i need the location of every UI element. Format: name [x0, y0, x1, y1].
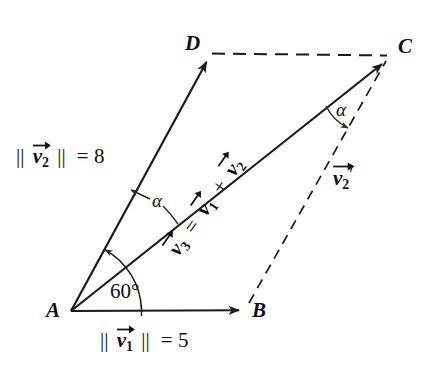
plus-sign: +	[206, 175, 232, 199]
vector-symbol-v2: v2	[33, 146, 49, 170]
figure-canvas: A B C D || v2 || = 8 || v1	[0, 0, 441, 370]
vector-subscript: 1	[126, 339, 133, 354]
edge-AB-vector-v1	[71, 310, 239, 311]
magnitude-label-v1: || v1 || = 5	[100, 330, 188, 354]
norm-bars-open: ||	[100, 328, 108, 352]
vector-arrow-accent-icon	[332, 161, 355, 170]
vector-symbol-v2-prime: v2′	[333, 167, 353, 192]
magnitude-equals-value-v2: = 8	[77, 144, 105, 168]
vertex-label-B: B	[252, 300, 266, 321]
alpha-left-leader2-icon	[163, 206, 178, 224]
vector-label-v2-prime: v2′	[333, 167, 353, 192]
vertex-label-D: D	[185, 33, 200, 54]
edge-DC-dashed	[212, 54, 387, 56]
angle-label-alpha-right: α	[336, 100, 346, 119]
vector-symbol-v1: v1	[117, 330, 133, 354]
vector-arrow-accent-icon	[116, 324, 135, 333]
norm-bars-close: ||	[141, 328, 149, 352]
magnitude-label-v2: || v2 || = 8	[16, 146, 104, 170]
magnitude-equals-value-v1: = 5	[161, 328, 189, 352]
angle-label-alpha-left: α	[152, 191, 162, 210]
equals-sign: =	[178, 214, 204, 238]
vector-letter: v	[333, 166, 342, 190]
edge-AD-vector-v2	[71, 62, 207, 311]
edge-BC-dashed-vector-v2-prime	[249, 61, 386, 303]
norm-bars-open: ||	[16, 144, 24, 168]
vector-subscript: 2	[42, 155, 49, 170]
vector-arrow-accent-icon	[32, 140, 51, 149]
vertex-label-C: C	[398, 36, 412, 57]
vertex-label-A: A	[46, 300, 60, 321]
angle-label-60: 60°	[110, 281, 139, 302]
norm-bars-close: ||	[57, 144, 65, 168]
